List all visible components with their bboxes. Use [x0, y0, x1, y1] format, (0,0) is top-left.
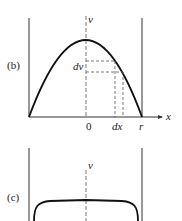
- velocity-profile-figure: (b) v dv 0 dx r x (c) v: [0, 0, 182, 221]
- panel-b-label: (b): [7, 60, 20, 71]
- figure-graphics: [0, 0, 182, 221]
- dv-label: dv: [73, 61, 83, 72]
- x-axis-label: x: [166, 111, 171, 122]
- origin-label: 0: [86, 121, 92, 132]
- x-axis-arrow-b: [158, 115, 163, 119]
- v-axis-label-c: v: [88, 160, 93, 171]
- dx-label: dx: [112, 121, 122, 132]
- r-label: r: [139, 121, 143, 132]
- parabolic-profile-curve: [29, 40, 142, 117]
- panel-c-label: (c): [7, 192, 19, 203]
- v-axis-label-b: v: [88, 14, 93, 25]
